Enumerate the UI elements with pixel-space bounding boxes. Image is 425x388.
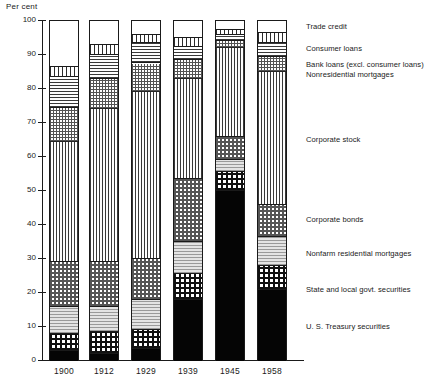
y-tick-60 <box>38 156 46 157</box>
legend-label-5: Corporate bonds <box>306 215 363 224</box>
segment-1945-consumer-loans <box>216 30 244 35</box>
segment-1958-nonres-mortgages <box>258 57 286 72</box>
segment-1900-state-local <box>50 334 78 351</box>
y-tick-label-0: 0 <box>32 356 36 364</box>
segment-1939-bank-loans <box>174 47 202 61</box>
segment-1900-nonfarm-mortgages <box>50 307 78 334</box>
legend-label-2: Bank loans (excl. consumer loans) <box>306 60 424 69</box>
segment-1939-state-local <box>174 274 202 300</box>
segment-1912-state-local <box>90 332 118 354</box>
bar-1912 <box>89 20 119 360</box>
y-tick-label-10: 10 <box>27 322 36 330</box>
y-tick-0 <box>38 360 46 361</box>
bar-1945 <box>215 20 245 360</box>
y-tick-label-70: 70 <box>27 118 36 126</box>
y-tick-80 <box>38 88 46 89</box>
segment-1900-bank-loans <box>50 77 78 108</box>
segment-1939-nonfarm-mortgages <box>174 242 202 274</box>
y-tick-20 <box>38 292 46 293</box>
segment-1958-consumer-loans <box>258 33 286 43</box>
segment-1945-trade-credit <box>216 21 244 30</box>
segment-1929-state-local <box>132 330 160 349</box>
segment-1912-corporate-stock <box>90 109 118 262</box>
y-tick-label-80: 80 <box>27 84 36 92</box>
segment-1945-us-treasury <box>216 191 244 361</box>
y-tick-70 <box>38 122 46 123</box>
y-tick-label-90: 90 <box>27 50 36 58</box>
bar-1958 <box>257 20 287 360</box>
y-axis-title: Per cent <box>6 2 37 11</box>
segment-1900-corporate-bonds <box>50 262 78 306</box>
segment-1958-corporate-stock <box>258 72 286 205</box>
y-tick-label-60: 60 <box>27 152 36 160</box>
segment-1958-trade-credit <box>258 21 286 33</box>
x-label-1929: 1929 <box>124 366 168 376</box>
legend-label-6: Nonfarm residential mortgages <box>306 249 418 258</box>
segment-1939-corporate-stock <box>174 79 202 179</box>
legend-label-1: Consumer loans <box>306 44 362 53</box>
segment-1929-corporate-stock <box>132 92 160 259</box>
legend-label-3: Nonresidential mortgages <box>306 70 394 79</box>
segment-1900-consumer-loans <box>50 67 78 77</box>
segment-1912-corporate-bonds <box>90 262 118 306</box>
segment-1929-corporate-bonds <box>132 259 160 300</box>
y-tick-label-50: 50 <box>27 186 36 194</box>
bar-1929 <box>131 20 161 360</box>
segment-1912-nonres-mortgages <box>90 79 118 110</box>
segment-1939-consumer-loans <box>174 38 202 47</box>
x-label-1912: 1912 <box>82 366 126 376</box>
segment-1939-corporate-bonds <box>174 179 202 242</box>
segment-1929-us-treasury <box>132 349 160 361</box>
legend-label-0: Trade credit <box>306 22 347 31</box>
segment-1929-nonfarm-mortgages <box>132 300 160 331</box>
segment-1912-trade-credit <box>90 21 118 45</box>
segment-1958-nonfarm-mortgages <box>258 237 286 266</box>
segment-1929-nonres-mortgages <box>132 64 160 93</box>
x-label-1945: 1945 <box>208 366 252 376</box>
segment-1958-us-treasury <box>258 290 286 361</box>
y-tick-label-100: 100 <box>23 16 36 24</box>
y-tick-100 <box>38 20 46 21</box>
x-label-1958: 1958 <box>250 366 294 376</box>
x-label-1900: 1900 <box>42 366 86 376</box>
segment-1958-bank-loans <box>258 43 286 57</box>
segment-1939-trade-credit <box>174 21 202 38</box>
segment-1912-consumer-loans <box>90 45 118 55</box>
segment-1945-state-local <box>216 172 244 191</box>
segment-1939-us-treasury <box>174 300 202 361</box>
bar-1939 <box>173 20 203 360</box>
segment-1912-nonfarm-mortgages <box>90 307 118 333</box>
bar-1900 <box>49 20 79 360</box>
segment-1900-us-treasury <box>50 351 78 361</box>
segment-1945-nonfarm-mortgages <box>216 160 244 172</box>
segment-1900-nonres-mortgages <box>50 108 78 142</box>
stacked-bar-chart: Per cent 0102030405060708090100 19001912… <box>0 0 425 388</box>
y-tick-40 <box>38 224 46 225</box>
legend-label-4: Corporate stock <box>306 135 360 144</box>
y-tick-label-30: 30 <box>27 254 36 262</box>
segment-1912-bank-loans <box>90 55 118 79</box>
segment-1958-corporate-bonds <box>258 205 286 237</box>
segment-1929-consumer-loans <box>132 35 160 44</box>
y-tick-label-20: 20 <box>27 288 36 296</box>
segment-1945-bank-loans <box>216 35 244 42</box>
segment-1945-corporate-stock <box>216 48 244 136</box>
segment-1929-trade-credit <box>132 21 160 35</box>
segment-1945-corporate-bonds <box>216 137 244 161</box>
y-tick-30 <box>38 258 46 259</box>
x-label-1939: 1939 <box>166 366 210 376</box>
segment-1945-nonres-mortgages <box>216 41 244 48</box>
segment-1912-us-treasury <box>90 354 118 361</box>
y-tick-10 <box>38 326 46 327</box>
segment-1958-state-local <box>258 266 286 290</box>
y-tick-90 <box>38 54 46 55</box>
y-tick-label-40: 40 <box>27 220 36 228</box>
legend-label-7: State and local govt. securities <box>306 285 411 294</box>
segment-1900-corporate-stock <box>50 142 78 263</box>
segment-1929-bank-loans <box>132 43 160 63</box>
segment-1939-nonres-mortgages <box>174 60 202 79</box>
y-tick-50 <box>38 190 46 191</box>
legend-label-8: U. S. Treasury securities <box>306 322 390 331</box>
segment-1900-trade-credit <box>50 21 78 67</box>
